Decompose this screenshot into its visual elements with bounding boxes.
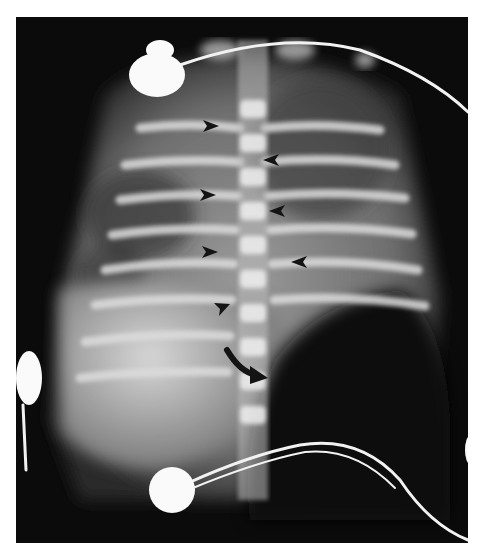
spine xyxy=(238,40,268,500)
left-lead-wire xyxy=(23,405,26,470)
electrode-left xyxy=(16,351,42,405)
radiograph xyxy=(16,17,468,543)
xray-image xyxy=(16,17,468,543)
electrode-bottom xyxy=(149,467,195,513)
electrode-right xyxy=(465,436,468,464)
